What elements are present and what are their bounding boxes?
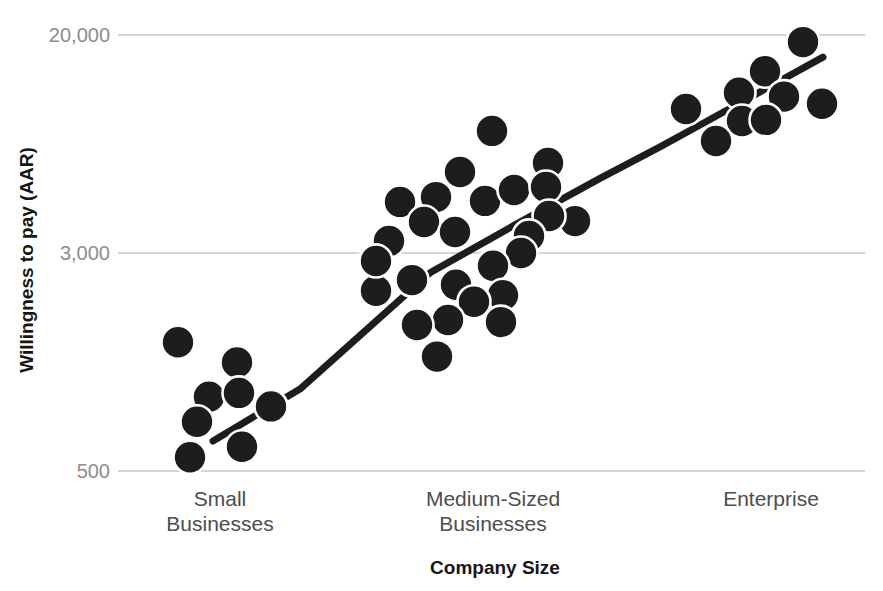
data-point-medium <box>360 274 393 307</box>
x-axis-title: Company Size <box>430 557 560 578</box>
y-tick-label-500: 500 <box>77 460 110 482</box>
chart-figure: 20,0003,000500 SmallBusinessesMedium-Siz… <box>0 0 883 591</box>
data-point-medium <box>498 174 531 207</box>
data-point-medium <box>432 304 465 337</box>
data-point-medium <box>477 249 510 282</box>
y-axis-title: Willingness to pay (AAR) <box>16 147 37 373</box>
y-tick-labels: 20,0003,000500 <box>49 24 110 482</box>
data-point-medium <box>444 156 477 189</box>
data-point-medium <box>476 114 509 147</box>
data-point-small <box>221 346 254 379</box>
data-point-small <box>255 390 288 423</box>
data-point-medium <box>485 306 518 339</box>
data-point-small <box>174 441 207 474</box>
y-tick-label-3000: 3,000 <box>60 242 110 264</box>
data-point-small <box>223 376 256 409</box>
data-point-small <box>162 326 195 359</box>
scatter-points <box>162 26 839 474</box>
data-point-enterprise <box>670 93 703 126</box>
data-point-medium <box>396 264 429 297</box>
data-point-medium <box>360 245 393 278</box>
data-point-small <box>226 430 259 463</box>
y-tick-label-20000: 20,000 <box>49 24 110 46</box>
data-point-enterprise <box>806 87 839 120</box>
x-category-label-enterprise: Enterprise <box>723 487 819 510</box>
x-category-labels: SmallBusinessesMedium-SizedBusinessesEnt… <box>166 487 819 535</box>
data-point-enterprise <box>700 125 733 158</box>
x-category-label-medium: Medium-SizedBusinesses <box>426 487 560 535</box>
data-point-medium <box>408 206 441 239</box>
data-point-enterprise <box>787 26 820 59</box>
data-point-medium <box>439 216 472 249</box>
data-point-medium <box>421 340 454 373</box>
data-point-enterprise <box>750 103 783 136</box>
data-point-small <box>181 405 214 438</box>
scatter-chart: 20,0003,000500 SmallBusinessesMedium-Siz… <box>0 0 883 591</box>
x-category-label-small: SmallBusinesses <box>166 487 273 535</box>
data-point-medium <box>401 309 434 342</box>
